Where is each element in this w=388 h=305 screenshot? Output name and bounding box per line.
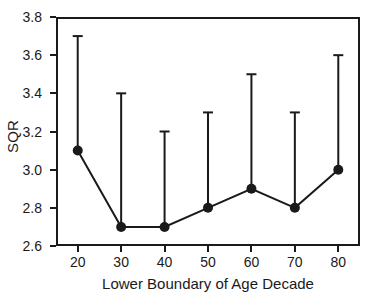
chart-figure: SQR 2.62.83.03.23.43.63.8 20304050607080… xyxy=(0,0,388,305)
y-tick-mark xyxy=(50,169,56,171)
data-point-marker xyxy=(73,146,83,156)
plot-canvas xyxy=(56,17,360,246)
y-tick-mark xyxy=(50,207,56,209)
y-tick-label: 2.8 xyxy=(8,201,42,215)
y-tick-label: 3.2 xyxy=(8,125,42,139)
x-tick-label: 30 xyxy=(106,255,136,269)
x-tick-mark xyxy=(337,246,339,252)
x-tick-mark xyxy=(77,246,79,252)
data-point-marker xyxy=(290,203,300,213)
x-tick-mark xyxy=(207,246,209,252)
y-tick-label: 2.6 xyxy=(8,239,42,253)
y-tick-mark xyxy=(50,245,56,247)
data-point-marker xyxy=(333,165,343,175)
x-tick-label: 60 xyxy=(236,255,266,269)
y-tick-label: 3.8 xyxy=(8,10,42,24)
y-tick-mark xyxy=(50,54,56,56)
x-tick-mark xyxy=(120,246,122,252)
y-tick-label: 3.6 xyxy=(8,48,42,62)
x-tick-label: 80 xyxy=(323,255,353,269)
data-point-marker xyxy=(203,203,213,213)
y-tick-mark xyxy=(50,92,56,94)
data-point-marker xyxy=(116,222,126,232)
x-tick-label: 50 xyxy=(193,255,223,269)
data-point-marker xyxy=(246,184,256,194)
x-tick-mark xyxy=(294,246,296,252)
x-axis-title-text: Lower Boundary of Age Decade xyxy=(102,275,314,292)
x-tick-label: 40 xyxy=(150,255,180,269)
x-tick-mark xyxy=(164,246,166,252)
x-tick-label: 70 xyxy=(280,255,310,269)
data-point-marker xyxy=(160,222,170,232)
y-tick-label: 3.4 xyxy=(8,86,42,100)
x-tick-label: 20 xyxy=(63,255,93,269)
y-tick-mark xyxy=(50,131,56,133)
y-tick-mark xyxy=(50,16,56,18)
x-tick-mark xyxy=(250,246,252,252)
y-tick-label: 3.0 xyxy=(8,163,42,177)
x-axis-title: Lower Boundary of Age Decade xyxy=(56,275,360,292)
error-bars-group xyxy=(73,36,344,227)
